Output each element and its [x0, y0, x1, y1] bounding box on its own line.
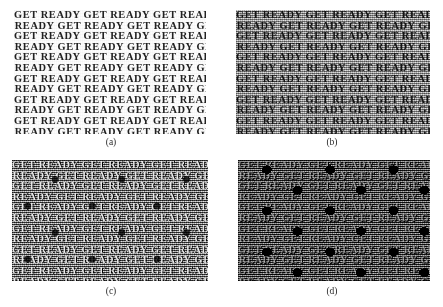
panel-b-image: GET READY GET READY GET READY GET READY … — [236, 10, 430, 134]
texture-row: GET READY GET READY GET READY GET READY — [12, 171, 208, 182]
texture-row: GET READY GET READY GET READY GET READY — [238, 234, 430, 245]
texture-row: GET READY GET READY GET READY GET READY — [14, 105, 206, 116]
texture-row: GET READY GET READY GET READY GET READY — [238, 181, 430, 192]
texture-row: GET READY GET READY GET READY GET READY — [14, 63, 206, 74]
texture-row: GET READY GET READY GET READY GET READY — [12, 266, 208, 277]
texture-row: GET READY GET READY GET READY GET READY — [14, 74, 206, 85]
panel-a-image: GET READY GET READY GET READY GET READY … — [14, 10, 206, 134]
panel-c-texture: GET READY GET READY GET READY GET READY … — [12, 160, 208, 281]
panel-a: GET READY GET READY GET READY GET READY … — [14, 10, 206, 134]
texture-row: GET READY GET READY GET READY GET READY — [236, 116, 430, 127]
texture-row: GET READY GET READY GET READY GET READY — [12, 192, 208, 203]
figure-four-panel-textures: GET READY GET READY GET READY GET READY … — [0, 0, 443, 307]
panel-d: GET READY GET READY GET READY GET READY … — [238, 160, 430, 281]
texture-row: GET READY GET READY GET READY GET READY — [238, 277, 430, 281]
panel-c-image: GET READY GET READY GET READY GET READY … — [12, 160, 208, 281]
texture-row: GET READY GET READY GET READY GET READY — [14, 10, 206, 21]
texture-row: GET READY GET READY GET READY GET READY — [236, 52, 430, 63]
panel-a-texture: GET READY GET READY GET READY GET READY … — [14, 10, 206, 134]
texture-row: GET READY GET READY GET READY GET READY — [12, 255, 208, 266]
texture-row: GET READY GET READY GET READY GET READY — [236, 74, 430, 85]
texture-row: GET READY GET READY GET READY GET READY — [14, 95, 206, 106]
texture-row: GET READY GET READY GET READY GET READY — [12, 181, 208, 192]
texture-row: GET READY GET READY GET READY GET READY — [236, 63, 430, 74]
texture-row: GET READY GET READY GET READY GET READY — [14, 31, 206, 42]
panel-b-caption: (b) — [221, 137, 443, 147]
texture-row: GET READY GET READY GET READY GET READY — [236, 105, 430, 116]
texture-row: GET READY GET READY GET READY GET READY — [236, 31, 430, 42]
texture-row: GET READY GET READY GET READY GET READY — [236, 84, 430, 95]
texture-row: GET READY GET READY GET READY GET READY — [12, 277, 208, 281]
texture-row: GET READY GET READY GET READY GET READY — [238, 255, 430, 266]
texture-row: GET READY GET READY GET READY GET READY — [236, 21, 430, 32]
texture-row: GET READY GET READY GET READY GET READY — [238, 224, 430, 235]
texture-row: GET READY GET READY GET READY GET READY — [238, 245, 430, 256]
texture-row: GET READY GET READY GET READY GET READY — [12, 245, 208, 256]
texture-row: GET READY GET READY GET READY GET READY — [236, 127, 430, 134]
texture-row: GET READY GET READY GET READY GET READY — [12, 160, 208, 171]
texture-row: GET READY GET READY GET READY GET READY — [14, 21, 206, 32]
panel-d-caption: (d) — [221, 286, 443, 296]
texture-row: GET READY GET READY GET READY GET READY — [238, 266, 430, 277]
texture-row: GET READY GET READY GET READY GET READY — [238, 171, 430, 182]
texture-row: GET READY GET READY GET READY GET READY — [238, 202, 430, 213]
texture-row: GET READY GET READY GET READY GET READY — [238, 160, 430, 171]
texture-row: GET READY GET READY GET READY GET READY — [236, 42, 430, 53]
texture-row: GET READY GET READY GET READY GET READY — [238, 192, 430, 203]
texture-row: GET READY GET READY GET READY GET READY — [12, 202, 208, 213]
texture-row: GET READY GET READY GET READY GET READY — [12, 234, 208, 245]
panel-b: GET READY GET READY GET READY GET READY … — [236, 10, 430, 134]
texture-row: GET READY GET READY GET READY GET READY — [236, 95, 430, 106]
panel-d-texture: GET READY GET READY GET READY GET READY … — [238, 160, 430, 281]
texture-row: GET READY GET READY GET READY GET READY — [12, 224, 208, 235]
texture-row: GET READY GET READY GET READY GET READY — [12, 213, 208, 224]
texture-row: GET READY GET READY GET READY GET READY — [238, 213, 430, 224]
texture-row: GET READY GET READY GET READY GET READY — [14, 84, 206, 95]
panel-c: GET READY GET READY GET READY GET READY … — [12, 160, 208, 281]
panel-a-caption: (a) — [0, 137, 222, 147]
texture-row: GET READY GET READY GET READY GET READY — [14, 127, 206, 134]
texture-row: GET READY GET READY GET READY GET READY — [14, 42, 206, 53]
panel-c-caption: (c) — [0, 286, 222, 296]
panel-d-image: GET READY GET READY GET READY GET READY … — [238, 160, 430, 281]
texture-row: GET READY GET READY GET READY GET READY — [236, 10, 430, 21]
panel-b-texture: GET READY GET READY GET READY GET READY … — [236, 10, 430, 134]
texture-row: GET READY GET READY GET READY GET READY — [14, 116, 206, 127]
texture-row: GET READY GET READY GET READY GET READY — [14, 52, 206, 63]
